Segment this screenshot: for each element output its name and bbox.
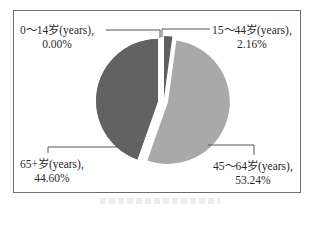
label-65-plus-name: 65+岁(years), [20, 157, 84, 171]
label-45-64-value: 53.24% [213, 173, 293, 187]
label-45-64-name: 45～64岁(years), [213, 159, 293, 173]
label-65-plus-value: 44.60% [20, 171, 84, 185]
faded-caption-remnant [100, 198, 220, 204]
label-15-44-name: 15～44岁(years), [212, 23, 292, 37]
label-15-44-value: 2.16% [212, 37, 292, 51]
label-0-14-name: 0～14岁(years), [20, 23, 94, 37]
leader-line-0-14 [106, 30, 160, 38]
leader-line-15-44 [162, 29, 210, 37]
label-0-14: 0～14岁(years), 0.00% [20, 23, 94, 51]
label-15-44: 15～44岁(years), 2.16% [212, 23, 292, 51]
leader-line-65-plus [48, 147, 118, 153]
leader-line-45-64 [208, 145, 254, 155]
label-45-64: 45～64岁(years), 53.24% [213, 159, 293, 187]
label-0-14-value: 0.00% [20, 37, 94, 51]
slice-65-plus-fill [96, 39, 158, 159]
label-65-plus: 65+岁(years), 44.60% [20, 157, 84, 185]
